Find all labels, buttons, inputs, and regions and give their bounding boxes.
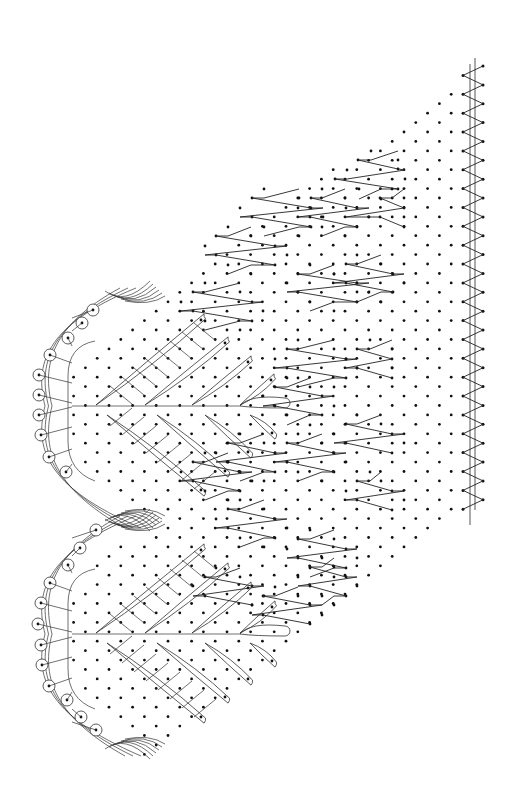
pinhole [438,159,441,162]
half-stitch-block [297,188,371,238]
pinhole [190,696,193,699]
footside-zigzag [463,66,483,509]
pinhole [450,150,453,153]
pinhole [108,480,111,483]
pinhole [367,310,370,313]
pinhole [202,404,205,407]
pinhole [450,508,453,511]
pinhole [391,480,394,483]
pinhole [155,574,158,577]
stitch-path [263,378,334,425]
pinhole [426,300,429,303]
stitch-pin [380,263,383,266]
stitch-pin [239,207,242,210]
pinhole [285,263,288,266]
stitch-pin [227,499,230,502]
half-stitch-block [345,188,406,229]
pinhole [320,366,323,369]
pinhole [296,498,299,501]
stitch-pin [286,414,289,417]
leaf-tip-pin [247,678,250,681]
cross-thread [122,417,144,435]
stitch-pin [239,499,242,502]
pinhole [155,461,158,464]
pinhole [143,640,146,643]
cross-thread [158,444,180,462]
pinhole [96,395,99,398]
stitch-pin [368,291,371,294]
pinhole [355,319,358,322]
stitch-pin [345,490,348,493]
pinhole [214,621,217,624]
pinhole [119,376,122,379]
pinhole [108,574,111,577]
pinhole [308,432,311,435]
pinhole [450,93,453,96]
pinhole [249,536,252,539]
pinhole [119,451,122,454]
pinhole [450,187,453,190]
pinhole [414,517,417,520]
pinhole [355,451,358,454]
pinhole [391,329,394,332]
cross-thread [122,377,144,395]
pinhole [273,329,276,332]
pinhole [261,640,264,643]
pinhole [367,498,370,501]
pinhole [379,432,382,435]
pinhole [379,395,382,398]
pinhole [84,630,87,633]
pinhole [167,659,170,662]
pinhole [226,612,229,615]
pinhole [226,480,229,483]
leaf-tip-pin [270,379,273,382]
pinhole [320,348,323,351]
pinhole [249,517,252,520]
cross-thread [134,368,156,386]
leaf-outline [192,582,253,633]
stitch-pin [321,226,324,229]
pinhole [414,480,417,483]
pinhole [84,404,87,407]
pinhole [167,508,170,511]
pinhole [131,725,134,728]
pinhole [237,564,240,567]
pinhole [155,348,158,351]
pinhole [414,140,417,143]
stitch-pin [180,301,183,304]
stitch-pin [321,480,324,483]
pinhole [344,253,347,256]
pinhole [344,329,347,332]
pinhole [237,300,240,303]
stitch-pin [309,529,312,532]
half-stitch-block [286,264,371,313]
cross-thread [110,614,132,632]
pinhole [119,338,122,341]
pinhole [249,291,252,294]
pinhole [190,621,193,624]
pinhole [367,404,370,407]
pinhole [379,206,382,209]
pinhole [167,696,170,699]
pinhole [285,583,288,586]
stitch-pin [403,282,406,285]
pinhole [296,612,299,615]
half-stitch-block [215,499,289,549]
pinhole [119,678,122,681]
pinhole [355,244,358,247]
pinhole [108,366,111,369]
pinhole [332,206,335,209]
pinhole [155,612,158,615]
pinhole [190,432,193,435]
pinhole [403,338,406,341]
stitch-pin [239,576,242,579]
pinhole [72,376,75,379]
pinhole [190,376,193,379]
stitch-pin [321,188,324,191]
pinhole [403,376,406,379]
pinhole [367,234,370,237]
pinhole [72,602,75,605]
pinhole [226,649,229,652]
pinhole [379,546,382,549]
pinhole [355,527,358,530]
